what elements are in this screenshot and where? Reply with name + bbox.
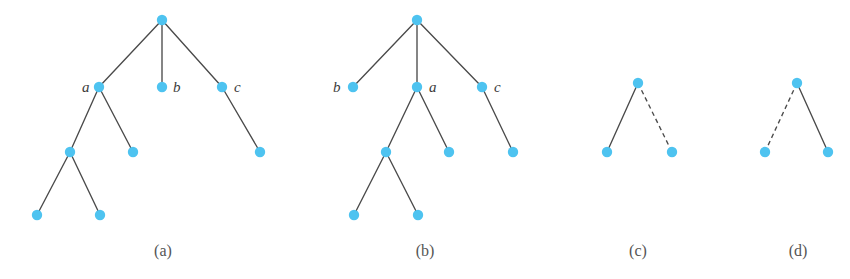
tree-node <box>65 147 75 157</box>
tree-edge-solid <box>386 152 418 215</box>
tree-node <box>255 147 265 157</box>
tree-node <box>508 147 518 157</box>
tree-node <box>217 82 227 92</box>
tree-edge-solid <box>162 20 222 87</box>
node-label-b: b <box>173 79 181 95</box>
tree-edge-solid <box>70 87 99 152</box>
tree-edge-solid <box>99 87 133 152</box>
tree-node <box>667 147 677 157</box>
tree-node <box>823 147 833 157</box>
figure-container: abcbac (a)(b)(c)(d) <box>0 0 850 279</box>
tree-node <box>602 147 612 157</box>
tree-node <box>444 147 454 157</box>
node-label-a: a <box>429 79 437 95</box>
tree-edge-dashed <box>638 83 672 152</box>
tree-node <box>412 82 422 92</box>
tree-node <box>349 210 359 220</box>
tree-node <box>633 78 643 88</box>
captions-layer: (a)(b)(c)(d) <box>154 242 807 260</box>
tree-node <box>32 210 42 220</box>
edges-layer <box>37 20 828 215</box>
tree-node <box>348 82 358 92</box>
tree-edge-solid <box>417 20 482 87</box>
tree-node <box>128 147 138 157</box>
tree-node <box>94 82 104 92</box>
panel-caption-panel-b: (b) <box>416 242 435 260</box>
node-label-c: c <box>494 79 501 95</box>
tree-node <box>792 78 802 88</box>
tree-edge-solid <box>797 83 828 152</box>
tree-edge-solid <box>482 87 513 152</box>
tree-edge-solid <box>99 20 162 87</box>
node-label-a: a <box>82 79 90 95</box>
panel-caption-panel-c: (c) <box>629 242 647 260</box>
tree-diagram-canvas: abcbac (a)(b)(c)(d) <box>0 0 850 279</box>
tree-edge-solid <box>37 152 70 215</box>
tree-node <box>412 15 422 25</box>
tree-edge-solid <box>222 87 260 152</box>
tree-node <box>157 82 167 92</box>
tree-node <box>760 147 770 157</box>
tree-edge-solid <box>70 152 100 215</box>
tree-edge-solid <box>353 20 417 87</box>
tree-node <box>381 147 391 157</box>
panel-caption-panel-a: (a) <box>154 242 172 260</box>
node-label-b: b <box>333 79 341 95</box>
tree-edge-solid <box>354 152 386 215</box>
tree-edge-dashed <box>765 83 797 152</box>
tree-node <box>413 210 423 220</box>
tree-node <box>477 82 487 92</box>
tree-edge-solid <box>386 87 417 152</box>
node-label-c: c <box>234 79 241 95</box>
panel-caption-panel-d: (d) <box>789 242 808 260</box>
labels-layer: abcbac <box>82 79 501 95</box>
tree-node <box>157 15 167 25</box>
tree-edge-solid <box>607 83 638 152</box>
tree-edge-solid <box>417 87 449 152</box>
tree-node <box>95 210 105 220</box>
